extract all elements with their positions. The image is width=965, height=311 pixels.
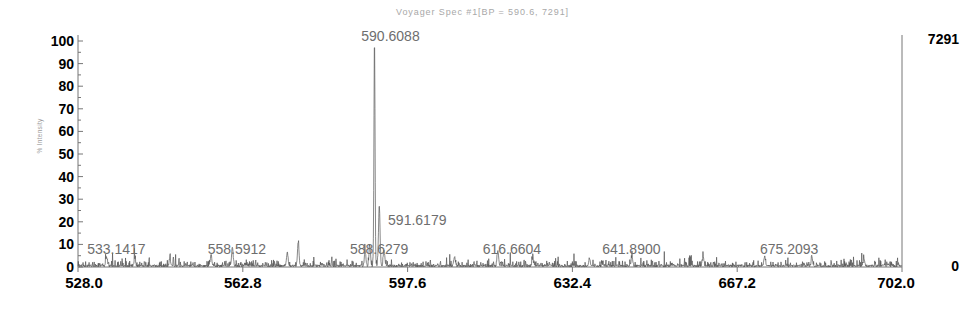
- peak-label-590.6088: 590.6088: [361, 28, 419, 44]
- mass-spectrum-chart: Voyager Spec #1[BP = 590.6, 7291] % Inte…: [0, 0, 965, 311]
- spectrum-trace: [78, 48, 902, 267]
- peak-label-533.1417: 533.1417: [87, 241, 145, 257]
- peak-label-616.6604: 616.6604: [483, 241, 541, 257]
- peak-label-675.2093: 675.2093: [760, 241, 818, 257]
- peak-label-641.8900: 641.8900: [602, 241, 660, 257]
- spectrum-line: [78, 48, 902, 267]
- peak-label-558.5912: 558.5912: [208, 241, 266, 257]
- axis-lines: [78, 35, 902, 272]
- peak-label-591.6179: 591.6179: [388, 212, 446, 228]
- peak-label-588.6279: 588.6279: [350, 241, 408, 257]
- spectrum-plot-area: [0, 0, 965, 311]
